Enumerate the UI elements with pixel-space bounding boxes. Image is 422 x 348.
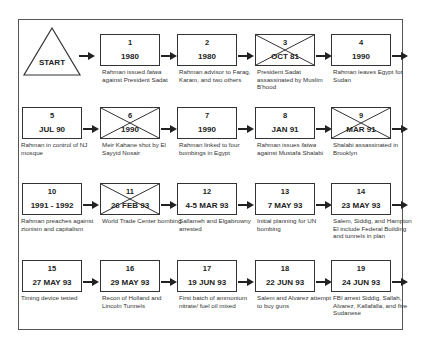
arrow-icon xyxy=(392,195,408,203)
event-date: 1990 xyxy=(101,125,159,134)
arrow-icon xyxy=(316,272,332,280)
event-box-4: 41990 xyxy=(331,34,391,66)
event-box-14: 1423 MAY 93 xyxy=(331,183,391,215)
event-box-18: 1822 JUN 93 xyxy=(255,260,315,292)
event-box-15: 1527 MAY 93 xyxy=(22,260,82,292)
arrow-icon xyxy=(316,195,332,203)
event-description: Rahman in control of NJ mosque xyxy=(21,141,101,156)
event-number: 13 xyxy=(256,187,314,196)
event-description: Meir Kahane shot by El Sayyid Nosair xyxy=(102,141,182,156)
event-box-8: 8JAN 91 xyxy=(255,107,315,139)
event-box-12: 124-5 MAR 93 xyxy=(177,183,237,215)
arrow-icon xyxy=(392,46,408,54)
event-number: 15 xyxy=(23,264,81,273)
event-box-2: 21980 xyxy=(177,34,237,66)
arrow-icon xyxy=(83,195,99,203)
event-number: 14 xyxy=(332,187,390,196)
event-date: MAR 91 xyxy=(332,125,390,134)
event-box-16: 1629 MAY 93 xyxy=(100,260,160,292)
event-date: 23 MAY 93 xyxy=(332,201,390,210)
event-description: Rahman leaves Egypt for Sudan xyxy=(333,68,413,83)
event-description: Rahman linked to four bombings in Egypt xyxy=(179,141,259,156)
event-description: Rahman issues fatwa against Mustafa Shal… xyxy=(257,141,337,156)
event-description: FBI arrest Siddig, Sallah, Alvarez, Kall… xyxy=(333,294,413,317)
event-description: Salem and Alvarez attempt to buy guns xyxy=(257,294,337,309)
event-number: 12 xyxy=(178,187,236,196)
event-date: 4-5 MAR 93 xyxy=(178,201,236,210)
event-number: 16 xyxy=(101,264,159,273)
event-date: 1990 xyxy=(178,125,236,134)
arrow-icon xyxy=(83,119,99,127)
event-date: 27 MAY 93 xyxy=(23,278,81,287)
event-number: 18 xyxy=(256,264,314,273)
arrow-icon xyxy=(392,119,408,127)
event-date: 26 FEB 93 xyxy=(101,201,159,210)
arrow-icon xyxy=(161,272,177,280)
arrow-icon xyxy=(238,119,254,127)
event-description: Initial planning for UN bombing xyxy=(257,217,337,232)
event-date: 22 JUN 93 xyxy=(256,278,314,287)
arrow-icon xyxy=(79,46,95,54)
event-number: 7 xyxy=(178,111,236,120)
event-description: Timing device tested xyxy=(21,294,101,302)
event-number: 19 xyxy=(332,264,390,273)
event-number: 3 xyxy=(256,38,314,47)
arrow-icon xyxy=(161,46,177,54)
event-description: Recon of Holland and Lincoln Tunnels xyxy=(102,294,182,309)
arrow-icon xyxy=(238,46,254,54)
arrow-icon xyxy=(238,272,254,280)
arrow-icon xyxy=(238,195,254,203)
event-box-6: 61990 xyxy=(100,107,160,139)
event-number: 6 xyxy=(101,111,159,120)
event-date: 1980 xyxy=(101,52,159,61)
event-number: 4 xyxy=(332,38,390,47)
event-box-7: 71990 xyxy=(177,107,237,139)
arrow-icon xyxy=(83,272,99,280)
event-date: 1980 xyxy=(178,52,236,61)
event-description: Rahman advisor to Farag, Karam, and two … xyxy=(179,68,259,83)
event-date: 19 JUN 93 xyxy=(178,278,236,287)
event-description: Rahman issued fatwa against President Sa… xyxy=(102,68,182,83)
event-number: 17 xyxy=(178,264,236,273)
event-box-1: 11980 xyxy=(100,34,160,66)
arrow-icon xyxy=(392,272,408,280)
event-date: 29 MAY 93 xyxy=(101,278,159,287)
event-box-17: 1719 JUN 93 xyxy=(177,260,237,292)
event-date: JAN 91 xyxy=(256,125,314,134)
event-box-5: 5JUL 90 xyxy=(22,107,82,139)
event-date: OCT 81 xyxy=(256,52,314,61)
event-date: 7 MAY 93 xyxy=(256,201,314,210)
event-box-10: 101991 - 1992 xyxy=(22,183,82,215)
event-date: 24 JUN 93 xyxy=(332,278,390,287)
event-description: Shalabi assassinated in Brooklyn xyxy=(333,141,413,156)
event-box-11: 1126 FEB 93 xyxy=(100,183,160,215)
event-number: 9 xyxy=(332,111,390,120)
event-date: 1990 xyxy=(332,52,390,61)
start-label: START xyxy=(22,58,82,67)
event-number: 1 xyxy=(101,38,159,47)
arrow-icon xyxy=(161,119,177,127)
event-date: JUL 90 xyxy=(23,125,81,134)
event-box-3: 3OCT 81 xyxy=(255,34,315,66)
event-description: Sallameh and Elgabrowny arrested xyxy=(179,217,259,232)
event-number: 2 xyxy=(178,38,236,47)
start-triangle-icon xyxy=(22,27,82,77)
event-description: First batch of ammonium nitrate/ fuel oi… xyxy=(179,294,259,309)
event-description: President Sadat assassinated by Muslim B… xyxy=(257,68,337,91)
arrow-icon xyxy=(161,195,177,203)
event-description: World Trade Center bombing xyxy=(102,217,182,225)
event-number: 11 xyxy=(101,187,159,196)
event-number: 8 xyxy=(256,111,314,120)
event-box-13: 137 MAY 93 xyxy=(255,183,315,215)
event-description: Rahman preaches against zionism and capi… xyxy=(21,217,101,232)
event-date: 1991 - 1992 xyxy=(23,201,81,210)
event-description: Salem, Siddig, and Hampton El include Fe… xyxy=(333,217,413,240)
event-box-19: 1924 JUN 93 xyxy=(331,260,391,292)
start-node: START xyxy=(22,27,82,77)
event-number: 10 xyxy=(23,187,81,196)
event-number: 5 xyxy=(23,111,81,120)
arrow-icon xyxy=(316,119,332,127)
event-box-9: 9MAR 91 xyxy=(331,107,391,139)
arrow-icon xyxy=(316,46,332,54)
